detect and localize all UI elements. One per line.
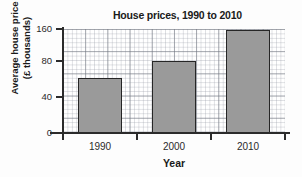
x-axis-title: Year bbox=[63, 157, 285, 169]
x-axis-tick bbox=[284, 133, 286, 140]
y-axis-tick bbox=[56, 60, 64, 62]
y-axis-line bbox=[62, 27, 64, 135]
x-axis-tick bbox=[210, 133, 212, 140]
y-axis-tick-label: 40 bbox=[18, 91, 52, 102]
chart-title: House prices, 1990 to 2010 bbox=[70, 9, 285, 21]
bar-2000 bbox=[152, 61, 196, 133]
x-axis-line bbox=[50, 132, 290, 134]
x-axis-tick bbox=[62, 133, 64, 140]
y-axis-title-line-1: Average house price bbox=[9, 0, 21, 103]
y-axis-title: Average house price (£ thousands) bbox=[9, 0, 35, 103]
x-axis-tick bbox=[136, 133, 138, 140]
y-axis-tick bbox=[56, 96, 64, 98]
x-axis-tick-label: 1990 bbox=[70, 141, 130, 152]
y-axis-tick-label: 80 bbox=[18, 55, 52, 66]
bar-1990 bbox=[78, 78, 122, 133]
y-axis-tick bbox=[56, 28, 64, 30]
x-axis-tick-label: 2000 bbox=[144, 141, 204, 152]
plot-area bbox=[63, 29, 285, 133]
y-axis-tick-label: 0 bbox=[18, 127, 52, 138]
y-axis-tick-label: 160 bbox=[18, 23, 52, 34]
x-axis-tick-label: 2010 bbox=[218, 141, 278, 152]
y-axis-title-line-2: (£ thousands) bbox=[21, 0, 33, 103]
bar-2010 bbox=[226, 30, 270, 133]
bar-chart-figure: House prices, 1990 to 2010 Average house… bbox=[0, 0, 302, 177]
